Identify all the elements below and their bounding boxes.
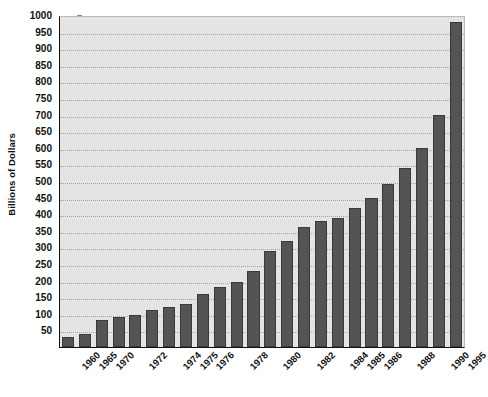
- bar: [247, 271, 259, 347]
- y-tick-label: 600: [35, 144, 52, 154]
- y-tick-label: 1000: [30, 11, 52, 21]
- y-tick-label: 500: [35, 177, 52, 187]
- y-tick-label: 700: [35, 111, 52, 121]
- y-tick-label: 800: [35, 77, 52, 87]
- x-tick-label: 1972: [148, 350, 170, 372]
- y-tick-label: 200: [35, 277, 52, 287]
- bar: [332, 218, 344, 347]
- bar: [416, 148, 428, 347]
- y-tick-label: 750: [35, 94, 52, 104]
- bar: [349, 208, 361, 347]
- y-tick-label: 450: [35, 194, 52, 204]
- x-tick-label: 1995: [466, 350, 488, 372]
- bar: [180, 304, 192, 347]
- y-tick-label: 850: [35, 61, 52, 71]
- bar: [315, 221, 327, 347]
- bar: [79, 334, 91, 347]
- x-tick-label: 1970: [114, 350, 136, 372]
- y-tick-label: 950: [35, 28, 52, 38]
- y-tick-label: 350: [35, 227, 52, 237]
- y-tick-label: 50: [41, 326, 52, 336]
- bar: [365, 198, 377, 347]
- bar: [129, 315, 141, 347]
- bar: [298, 227, 310, 347]
- y-axis-tick-labels: 1000950900850800750700650600550500450400…: [22, 0, 55, 360]
- x-tick-label: 1986: [382, 350, 404, 372]
- bar: [433, 115, 445, 347]
- y-tick-label: 550: [35, 160, 52, 170]
- x-tick-label: 1982: [315, 350, 337, 372]
- bar: [163, 307, 175, 347]
- y-tick-label: 250: [35, 260, 52, 270]
- bar: [96, 320, 108, 347]
- bar: [231, 282, 243, 347]
- bar: [197, 294, 209, 347]
- y-tick-label: 400: [35, 210, 52, 220]
- bar-series: [60, 17, 464, 347]
- y-tick-label: 100: [35, 310, 52, 320]
- bar: [281, 241, 293, 347]
- bar: [62, 337, 74, 347]
- bar: [214, 287, 226, 347]
- x-tick-label: 1988: [416, 350, 438, 372]
- y-tick-label: 900: [35, 44, 52, 54]
- x-tick-label: 1980: [282, 350, 304, 372]
- y-tick-label: 150: [35, 293, 52, 303]
- y-axis-title: Billions of Dollars: [0, 0, 22, 348]
- bar: [113, 317, 125, 347]
- plot-area: [59, 16, 465, 348]
- bar: [382, 184, 394, 347]
- bar: [399, 168, 411, 347]
- bar: [450, 22, 462, 347]
- x-axis-tick-labels: 1960196519701972197419751976197819801982…: [59, 350, 465, 397]
- x-tick-label: 1978: [248, 350, 270, 372]
- y-axis-title-text: Billions of Dollars: [6, 133, 17, 216]
- bar: [146, 310, 158, 347]
- y-tick-label: 650: [35, 127, 52, 137]
- y-tick-label: 300: [35, 243, 52, 253]
- x-tick-label: 1976: [215, 350, 237, 372]
- bar: [264, 251, 276, 347]
